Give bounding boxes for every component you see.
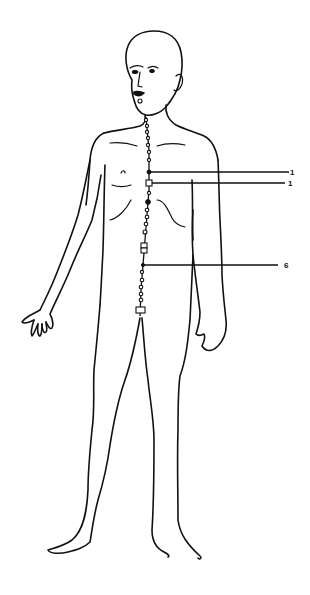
label-1b: 1	[288, 179, 293, 188]
label-1a: 1	[290, 168, 295, 177]
left-arm	[22, 160, 101, 336]
label-6: 6	[284, 261, 289, 270]
annotation-labels: 1 1 6	[143, 168, 295, 270]
torso	[86, 105, 218, 305]
conception-vessel-meridian	[136, 117, 152, 316]
meridian-diagram: 1 1 6	[0, 0, 310, 595]
right-arm	[192, 160, 226, 351]
head	[126, 31, 183, 115]
legs	[48, 255, 201, 559]
